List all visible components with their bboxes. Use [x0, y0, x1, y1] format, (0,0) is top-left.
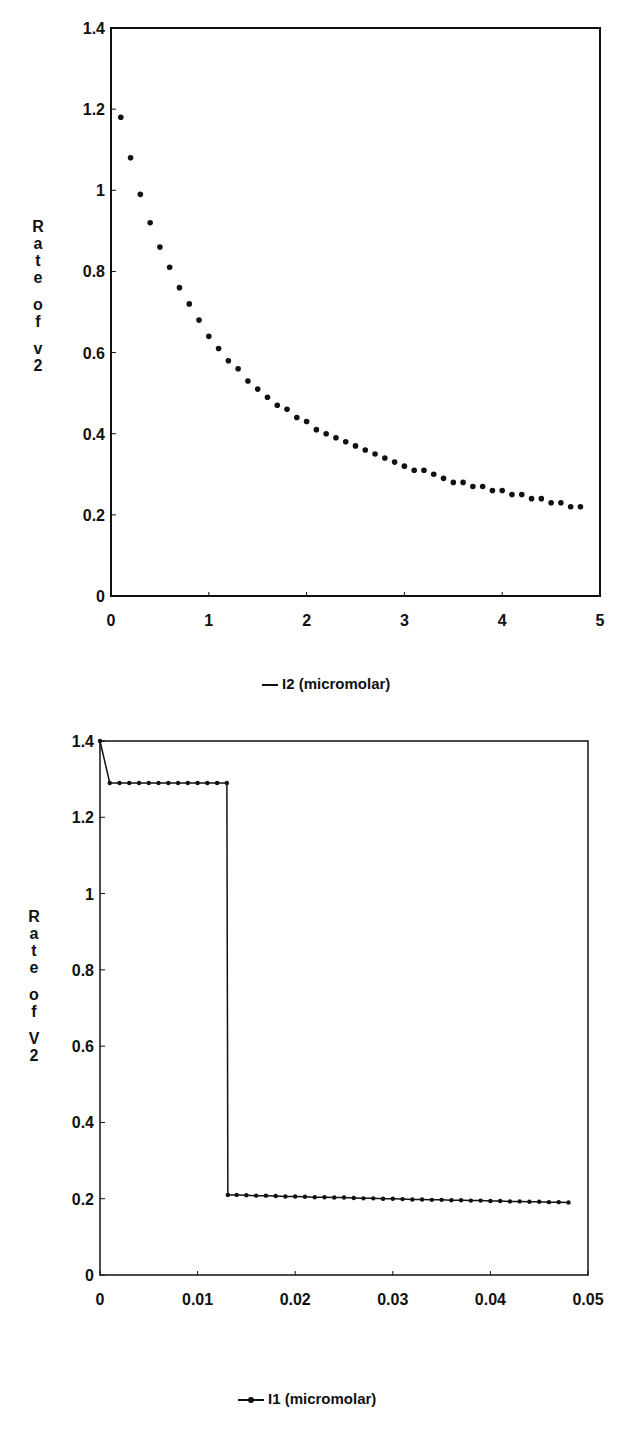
data-point [147, 781, 151, 785]
x-tick-label: 0.05 [572, 1291, 603, 1308]
data-point [235, 366, 241, 372]
data-point [421, 467, 427, 473]
data-point [177, 285, 183, 291]
data-point [303, 1195, 307, 1199]
data-point [234, 1193, 238, 1197]
legend-line-marker [238, 1399, 264, 1401]
y-tick-label: 0.6 [83, 345, 105, 362]
data-point [392, 459, 398, 465]
data-point [519, 492, 525, 498]
data-point [566, 1200, 570, 1204]
data-point [539, 496, 545, 502]
data-point [195, 781, 199, 785]
data-point [138, 192, 144, 198]
plot-area: 00.20.40.60.811.21.4012345 [0, 0, 626, 700]
y-tick-label: 1.2 [83, 101, 105, 118]
data-point [108, 781, 112, 785]
data-point [578, 504, 584, 510]
data-point [196, 317, 202, 323]
y-tick-label: 1 [85, 886, 94, 903]
data-point [517, 1199, 521, 1203]
y-tick-label: 0.6 [72, 1038, 94, 1055]
x-tick-label: 0.04 [475, 1291, 506, 1308]
y-tick-label: 0.8 [72, 962, 94, 979]
data-point [451, 480, 457, 486]
y-axis-label: R a t e o f v 2 [30, 218, 46, 374]
data-point [128, 155, 134, 161]
data-point [361, 1196, 365, 1200]
chart-rate-v2-vs-i1: R a t e o f V 2 00.20.40.60.811.21.400.0… [0, 700, 626, 1437]
plot-frame [111, 28, 600, 596]
data-point [245, 378, 251, 384]
data-point [509, 492, 515, 498]
x-tick-label: 2 [302, 612, 311, 629]
data-point [322, 1195, 326, 1199]
data-point [118, 114, 124, 120]
data-point [402, 463, 408, 469]
legend: I1 (micromolar) [238, 1390, 376, 1407]
data-point [439, 1198, 443, 1202]
data-point [430, 1198, 434, 1202]
data-point [568, 504, 574, 510]
legend-label: I1 (micromolar) [268, 1390, 376, 1407]
y-tick-label: 0.2 [83, 507, 105, 524]
data-point [273, 1194, 277, 1198]
data-point [381, 1197, 385, 1201]
data-point [353, 443, 359, 449]
data-point [176, 781, 180, 785]
x-tick-label: 0 [107, 612, 116, 629]
data-point [205, 781, 209, 785]
data-point [216, 346, 222, 352]
legend-line-marker [262, 684, 278, 686]
data-point [304, 419, 310, 425]
data-point [117, 781, 121, 785]
series-line [100, 741, 568, 1203]
data-point [274, 403, 280, 409]
data-point [255, 386, 261, 392]
data-point [498, 1199, 502, 1203]
data-point [488, 1199, 492, 1203]
data-point [508, 1199, 512, 1203]
data-point [480, 484, 486, 490]
data-point [469, 1198, 473, 1202]
data-point [167, 265, 173, 271]
data-point [391, 1197, 395, 1201]
x-tick-label: 0.01 [182, 1291, 213, 1308]
data-point [157, 244, 163, 250]
y-tick-label: 1.4 [72, 733, 94, 750]
y-tick-label: 0.4 [72, 1114, 94, 1131]
data-point [478, 1198, 482, 1202]
data-point [410, 1197, 414, 1201]
data-point [449, 1198, 453, 1202]
x-tick-label: 3 [400, 612, 409, 629]
y-tick-label: 0.4 [83, 426, 105, 443]
data-point [400, 1197, 404, 1201]
x-tick-label: 4 [498, 612, 507, 629]
y-tick-label: 0 [85, 1267, 94, 1284]
data-point [98, 739, 102, 743]
data-point [156, 781, 160, 785]
legend-label: I2 (micromolar) [282, 675, 390, 692]
data-point [137, 781, 141, 785]
data-point [557, 1200, 561, 1204]
data-point [244, 1193, 248, 1197]
data-point [313, 1195, 317, 1199]
data-point [294, 415, 300, 421]
data-point [420, 1197, 424, 1201]
data-point [254, 1193, 258, 1197]
y-tick-label: 0 [96, 588, 105, 605]
data-point [343, 439, 349, 445]
data-point [147, 220, 153, 226]
data-point [352, 1196, 356, 1200]
data-point [206, 334, 212, 340]
y-tick-label: 0.2 [72, 1191, 94, 1208]
data-point [284, 407, 290, 413]
data-point [265, 394, 271, 400]
data-point [459, 1198, 463, 1202]
data-point [431, 471, 437, 477]
y-tick-label: 0.8 [83, 263, 105, 280]
x-tick-label: 0 [96, 1291, 105, 1308]
data-point [333, 435, 339, 441]
data-point [215, 781, 219, 785]
data-point [460, 480, 466, 486]
